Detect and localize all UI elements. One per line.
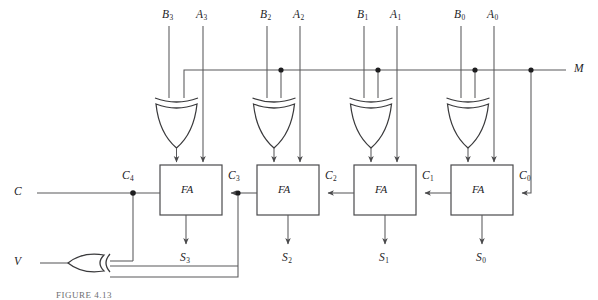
junction-dot-m-b2 [278,67,283,72]
label-c0: C0 [519,170,531,182]
junction-dot-c4 [130,190,136,196]
label-a1: A1 [390,9,401,21]
label-overflow-v: V [14,256,21,268]
label-a0: A0 [487,9,498,21]
label-b1: B1 [357,9,368,21]
label-c4: C4 [122,170,134,182]
label-carry-out-c: C [14,186,22,198]
label-s1: S1 [379,252,389,264]
label-b0: B0 [454,9,465,21]
junction-dot-m-b0 [472,67,477,72]
junction-dot-m-c0 [528,67,533,72]
carry-out-line-c4 [37,190,160,261]
label-s2: S2 [282,252,292,264]
junction-dot-c3 [235,190,240,195]
label-s3: S3 [180,252,190,264]
xor-gate-3 [155,98,198,162]
label-c2: C2 [325,170,337,182]
label-b3: B3 [162,9,173,21]
label-fa-0: FA [472,184,484,195]
overflow-xor-gate [40,254,238,272]
xor-gate-2 [253,98,296,162]
label-s0: S0 [476,252,486,264]
junction-dot-m-b1 [375,67,380,72]
figure-canvas: B3 A3 B2 A2 B1 A1 B0 A0 M FA FA FA FA C4… [0,0,598,300]
label-fa-1: FA [375,184,387,195]
label-b2: B2 [260,9,271,21]
label-c3: C3 [228,170,240,182]
label-a2: A2 [293,9,304,21]
label-a3: A3 [196,9,207,21]
label-fa-3: FA [181,184,193,195]
figure-caption: FIGURE 4.13 [56,290,112,300]
label-mode-m: M [574,63,584,75]
circuit-schematic [0,0,598,300]
xor-gate-0 [447,98,490,162]
label-c1: C1 [422,170,434,182]
label-fa-2: FA [278,184,290,195]
xor-gate-1 [350,98,393,162]
